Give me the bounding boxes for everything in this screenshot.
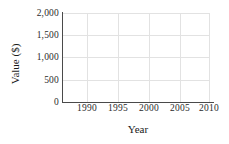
gridline-vertical-1990 — [87, 13, 88, 102]
gridline-horizontal-2000 — [62, 13, 210, 14]
y-axis-title: Value ($) — [9, 20, 23, 109]
x-axis-title: Year — [62, 123, 214, 135]
gridline-vertical-2005 — [180, 13, 181, 102]
x-tick-label-2010: 2010 — [189, 104, 229, 114]
gridline-horizontal-500 — [62, 80, 210, 81]
y-axis-spine — [62, 12, 63, 103]
gridline-horizontal-1500 — [62, 35, 210, 36]
gridline-vertical-2010 — [209, 13, 210, 102]
plot-area — [62, 13, 210, 102]
value-vs-year-chart: 2,000 1,500 1,000 500 0 1990 1995 2000 2… — [0, 0, 229, 144]
gridline-horizontal-1000 — [62, 57, 210, 58]
gridline-vertical-1995 — [118, 13, 119, 102]
gridline-vertical-2000 — [149, 13, 150, 102]
y-tick-label-2000: 2,000 — [1, 9, 59, 19]
